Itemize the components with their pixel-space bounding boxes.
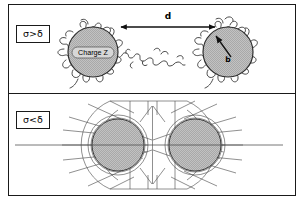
figure-container: σ>δ: [0, 0, 306, 207]
panel-sigma-less-delta: σ<δ: [9, 94, 295, 196]
figure-frame: σ>δ: [8, 4, 296, 196]
separation-arrow-d: d: [121, 11, 215, 27]
bottom-panel-graphics: [9, 94, 295, 196]
bridging-polymer-chain: [120, 48, 185, 68]
charge-label-group: Charge Z: [72, 47, 114, 58]
radius-label-b: b: [225, 55, 231, 64]
top-panel-graphics: Charge Z: [9, 5, 295, 93]
panel-sigma-greater-delta: σ>δ: [9, 5, 295, 93]
charge-label-text: Charge Z: [78, 48, 109, 57]
separation-label-d: d: [165, 11, 171, 21]
